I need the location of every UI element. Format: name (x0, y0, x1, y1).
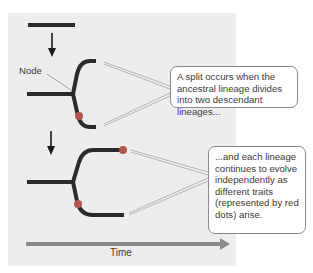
evolved-tree (27, 146, 127, 215)
callout-1-leader-lines (104, 62, 170, 126)
node-label: Node (19, 65, 42, 76)
trait-dot (119, 146, 127, 154)
node-leader-line (47, 74, 71, 90)
callout-2-leader-lines (129, 150, 208, 215)
split-callout: A split occurs when the ancestral lineag… (170, 66, 298, 108)
down-arrow-icon (48, 33, 56, 57)
time-axis-label: Time (110, 247, 132, 258)
evolution-callout: ...and each lineage continues to evolve … (208, 146, 306, 234)
down-arrow-icon (47, 131, 55, 155)
trait-dot (74, 200, 82, 208)
trait-dot (75, 112, 83, 120)
